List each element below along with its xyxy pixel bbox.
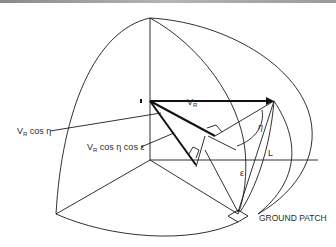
right-curve [258,101,292,214]
right-angle-marker-1 [207,125,222,132]
vr-cos-eta-vector [150,101,215,136]
label-vr-cos-eta: VR cos η [17,126,51,137]
ground-to-proj-line [205,150,238,212]
label-vr-top: VR [187,97,198,108]
label-L: L [268,148,273,158]
proj-eta-line [208,136,236,150]
velocity-geometry-diagram: VR VR cos η VR cos η cos ε η L ε GROUND … [0,0,336,247]
label-epsilon: ε [240,168,244,178]
tip-to-proj-line [215,101,274,136]
sphere-right-arc [150,18,312,214]
label-vr-cos-eta-cos-eps: VR cos η cos ε [87,142,144,153]
vr-cos-eta-cos-eps-vector [150,101,196,165]
sphere-left-arc [56,18,150,214]
inner-meridian-arc [150,18,246,214]
origin-left-line [56,160,150,214]
leader-vr-cos-eta [50,113,161,131]
proj-vertical-line [196,136,205,167]
sphere-bottom-arc [56,214,238,236]
label-ground-patch: GROUND PATCH [259,213,327,223]
label-eta: η [258,122,263,132]
leader-vr-cos-eta-cos-eps [141,133,174,147]
